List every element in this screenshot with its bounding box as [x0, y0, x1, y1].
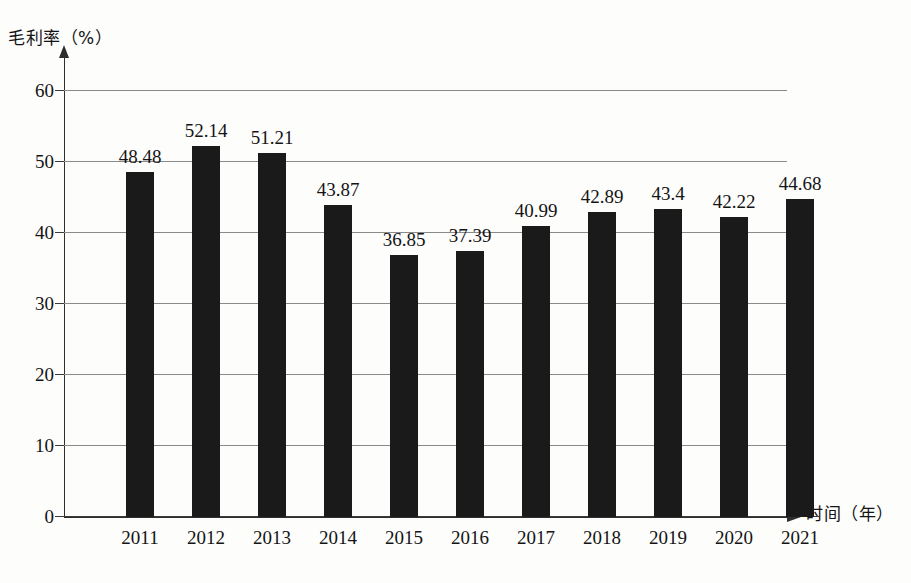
y-axis-tick [55, 303, 64, 304]
x-axis-tick-label: 2020 [701, 528, 767, 547]
x-axis-line [64, 517, 789, 518]
x-axis-tick-labels: 2011201220132014201520162017201820192020… [64, 524, 787, 554]
bar[interactable] [588, 212, 616, 517]
x-axis-tick-label: 2012 [173, 528, 239, 547]
y-axis-tick-label: 40 [35, 223, 54, 242]
bar-value-label: 42.89 [569, 187, 635, 206]
bar[interactable] [258, 153, 286, 517]
bar-group[interactable]: 42.22 [701, 55, 767, 517]
bar-value-label: 42.22 [701, 192, 767, 211]
x-axis-tick-label: 2018 [569, 528, 635, 547]
bar-group[interactable]: 43.4 [635, 55, 701, 517]
x-axis-tick-label: 2011 [107, 528, 173, 547]
x-axis-tick-label: 2021 [767, 528, 833, 547]
bar[interactable] [654, 209, 682, 517]
bar-chart: 毛利率（%） 时间（年） 0102030405060 48.4852.1451.… [0, 0, 911, 583]
bar-group[interactable]: 48.48 [107, 55, 173, 517]
bar-value-label: 43.4 [635, 184, 701, 203]
bar-group[interactable]: 52.14 [173, 55, 239, 517]
y-axis-tick [55, 161, 64, 162]
bar[interactable] [324, 205, 352, 517]
bar-value-label: 52.14 [173, 121, 239, 140]
y-axis-tick-label: 0 [45, 507, 55, 526]
x-axis-tick-label: 2015 [371, 528, 437, 547]
bar-group[interactable]: 37.39 [437, 55, 503, 517]
bar-group[interactable]: 40.99 [503, 55, 569, 517]
x-axis-tick-label: 2016 [437, 528, 503, 547]
bar-group[interactable]: 51.21 [239, 55, 305, 517]
x-axis-tick-label: 2014 [305, 528, 371, 547]
y-axis-tick [55, 232, 64, 233]
bar[interactable] [126, 172, 154, 517]
bar-value-label: 43.87 [305, 180, 371, 199]
bar-value-label: 36.85 [371, 230, 437, 249]
bar-value-label: 51.21 [239, 128, 305, 147]
y-axis-tick-label: 50 [35, 152, 54, 171]
y-axis-tick-label: 30 [35, 294, 54, 313]
y-axis-tick [55, 90, 64, 91]
bar-value-label: 37.39 [437, 226, 503, 245]
bar-value-label: 48.48 [107, 147, 173, 166]
x-axis-tick-label: 2019 [635, 528, 701, 547]
bar-value-label: 40.99 [503, 201, 569, 220]
bar[interactable] [456, 251, 484, 517]
bar[interactable] [720, 217, 748, 517]
x-axis-tick-label: 2013 [239, 528, 305, 547]
y-axis-tick-labels: 0102030405060 [12, 55, 54, 517]
bar-group[interactable]: 42.89 [569, 55, 635, 517]
y-axis-tick-label: 20 [35, 365, 54, 384]
bar-value-label: 44.68 [767, 174, 833, 193]
bar[interactable] [786, 199, 814, 517]
bar-group[interactable]: 44.68 [767, 55, 833, 517]
bar-group[interactable]: 36.85 [371, 55, 437, 517]
plot-area: 48.4852.1451.2143.8736.8537.3940.9942.89… [64, 55, 787, 517]
bar[interactable] [192, 146, 220, 517]
y-axis-tick [55, 374, 64, 375]
x-axis-tick-label: 2017 [503, 528, 569, 547]
y-axis-tick-label: 10 [35, 436, 54, 455]
y-axis-tick-label: 60 [35, 81, 54, 100]
bar[interactable] [390, 255, 418, 517]
y-axis-tick [55, 516, 64, 517]
y-axis-tick [55, 445, 64, 446]
bar[interactable] [522, 226, 550, 517]
bar-group[interactable]: 43.87 [305, 55, 371, 517]
